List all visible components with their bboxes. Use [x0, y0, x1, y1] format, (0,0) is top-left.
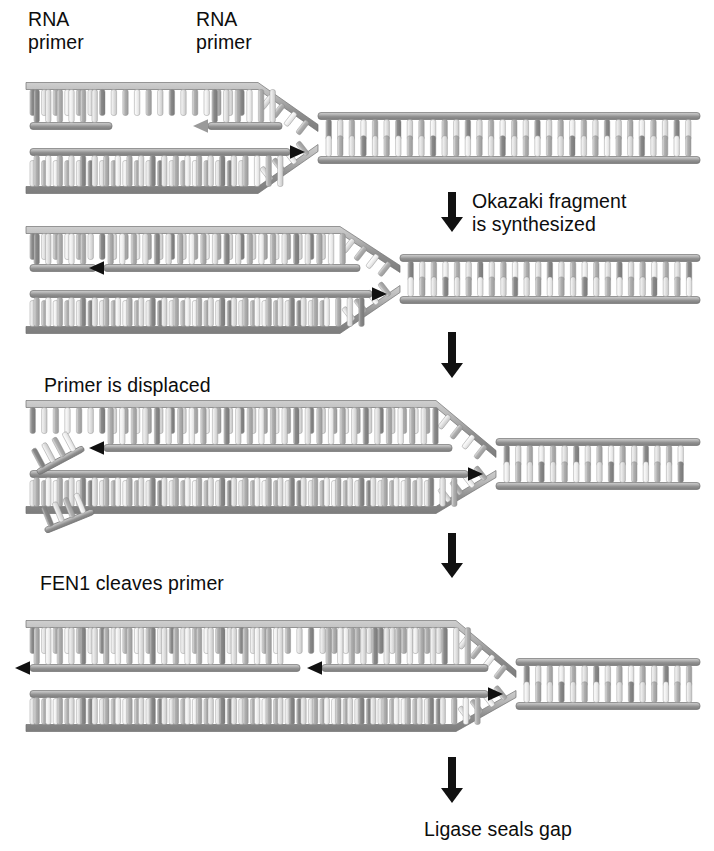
- label-ligase-seals: Ligase seals gap: [424, 818, 572, 841]
- okazaki-fragment-new-arrowhead: [89, 441, 104, 455]
- okazaki-fragment-new-backbone: [104, 445, 452, 452]
- panel-1-parental-duplex-bottom-backbone: [318, 157, 700, 164]
- panel-4: [15, 621, 700, 732]
- rna-primer-new-backbone: [208, 123, 282, 130]
- leading-strand-rungs: [34, 478, 457, 507]
- panel-4-parental-duplex-top-backbone: [516, 659, 700, 666]
- panel-1-parental-duplex: [318, 113, 700, 164]
- label-rna-primer-left: RNA primer: [28, 8, 84, 54]
- panel-3-leading-template-bases: [30, 481, 430, 507]
- okazaki-fragment-new-backbone: [104, 265, 360, 272]
- okazaki-fragment-old-arrowhead: [15, 661, 30, 675]
- okazaki-fragment-old-backbone: [30, 123, 112, 130]
- panel-2-parental-duplex: [400, 255, 700, 304]
- diagram-canvas: RNA primerRNA primerOkazaki fragment is …: [0, 0, 714, 851]
- leading-strand-backbone: [30, 471, 468, 478]
- panel-1: [26, 83, 700, 194]
- step-arrow-2: [441, 332, 463, 378]
- okazaki-fragment-new: [89, 408, 452, 455]
- dna-replication-diagram: [0, 0, 714, 851]
- panel-1-parental-duplex-top-backbone: [318, 113, 700, 120]
- step-arrow-3: [441, 533, 463, 578]
- panel-2-parental-duplex-bottom-backbone: [400, 297, 700, 304]
- panel-3-parental-duplex-top-backbone: [496, 439, 700, 446]
- leading-strand: [30, 287, 387, 326]
- leading-strand-backbone: [30, 149, 290, 156]
- displaced-primer-flap: [27, 428, 85, 476]
- label-okazaki-step: Okazaki fragment is synthesized: [472, 190, 626, 236]
- label-fen1-cleaves: FEN1 cleaves primer: [40, 572, 224, 595]
- panel-1-parental-duplex-base-pairs: [326, 120, 691, 157]
- panel-4-parental-duplex-base-pairs: [524, 666, 692, 703]
- step-arrow-1: [441, 192, 463, 232]
- okazaki-fragment-old: [30, 234, 96, 272]
- rna-primer-new-arrowhead: [193, 119, 208, 133]
- okazaki-fragment-old-backbone: [30, 265, 96, 272]
- panel-3-parental-duplex-bottom-backbone: [496, 483, 700, 490]
- label-primer-displaced: Primer is displaced: [44, 374, 211, 397]
- okazaki-fragment-new-arrowhead: [307, 661, 322, 675]
- okazaki-fragment-new-backbone: [322, 665, 488, 672]
- step-arrow-4: [441, 757, 463, 803]
- leading-strand-backbone: [30, 291, 372, 298]
- okazaki-fragment-new-arrowhead: [89, 261, 104, 275]
- leading-strand-backbone: [30, 691, 488, 698]
- panel-4-parental-duplex: [516, 659, 700, 710]
- panel-3-parental-duplex-base-pairs: [504, 446, 683, 483]
- panel-3: [26, 401, 700, 514]
- panel-2-parental-duplex-top-backbone: [400, 255, 700, 262]
- panel-3-parental-duplex: [496, 439, 700, 490]
- leading-strand-rungs: [34, 298, 364, 327]
- okazaki-fragment-new-rungs: [108, 234, 345, 265]
- okazaki-fragment-old-backbone: [30, 665, 300, 672]
- label-rna-primer-right: RNA primer: [196, 8, 252, 54]
- panel-2-parental-duplex-base-pairs: [408, 262, 692, 297]
- panel-4-parental-duplex-bottom-backbone: [516, 703, 700, 710]
- okazaki-fragment-new-rungs: [108, 408, 438, 445]
- okazaki-fragment-new: [89, 234, 360, 275]
- leading-strand: [30, 145, 305, 186]
- panel-2: [26, 227, 700, 334]
- panel-3-lagging-template-bases: [30, 408, 430, 434]
